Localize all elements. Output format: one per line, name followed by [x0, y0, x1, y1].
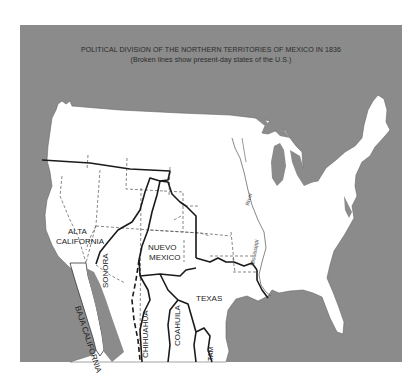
- label-coahuila: COAHUILA: [173, 304, 182, 346]
- label-sonora: SONORA: [101, 253, 110, 288]
- label-chihuahua: CHIHUAHUA: [141, 310, 150, 358]
- label-alta-california-2: CALIFORNIA: [56, 237, 105, 246]
- label-nuevo-mexico-1: NUEVO: [148, 243, 176, 252]
- map-canvas: ALTA CALIFORNIA NUEVO MEXICO TEXAS SONOR…: [0, 0, 420, 383]
- label-tamaulipas: TAM: [207, 347, 214, 361]
- label-texas: TEXAS: [196, 294, 222, 303]
- label-nuevo-mexico-2: MEXICO: [149, 253, 181, 262]
- label-alta-california-1: ALTA: [68, 227, 87, 236]
